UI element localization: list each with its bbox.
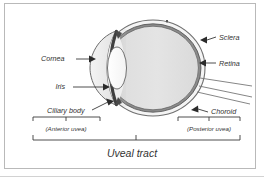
eye-diagram: Cornea Iris Ciliary body Sclera Retina C… xyxy=(0,0,264,183)
figure-title: Uveal tract xyxy=(107,147,158,159)
apex-tick-mark xyxy=(166,20,168,22)
eye-anatomy-figure: Cornea Iris Ciliary body Sclera Retina C… xyxy=(0,0,264,183)
uveal-tract-bracket xyxy=(33,135,240,140)
label-sclera: Sclera xyxy=(219,33,239,42)
label-retina: Retina xyxy=(219,59,240,68)
label-cornea: Cornea xyxy=(41,54,65,63)
anterior-uvea-bracket xyxy=(33,117,100,121)
lens-structure xyxy=(108,47,127,89)
label-ciliary-body: Ciliary body xyxy=(47,106,85,115)
label-choroid: Choroid xyxy=(211,107,237,116)
label-posterior-uvea: (Posterior uvea) xyxy=(187,125,231,132)
optic-nerve xyxy=(197,78,252,104)
posterior-uvea-bracket xyxy=(178,117,240,121)
label-anterior-uvea: (Anterior uvea) xyxy=(46,125,87,132)
label-iris: Iris xyxy=(55,82,65,91)
